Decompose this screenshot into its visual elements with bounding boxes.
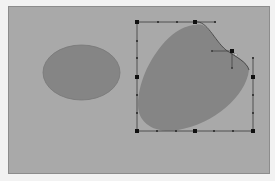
selection-tick-handle[interactable]	[252, 112, 254, 114]
selection-tick-handle[interactable]	[175, 130, 177, 132]
selection-tick-handle[interactable]	[136, 57, 138, 59]
ellipse-shape[interactable]	[43, 45, 120, 100]
resize-handle[interactable]	[193, 20, 197, 24]
selection-tick-handle[interactable]	[252, 57, 254, 59]
resize-handle[interactable]	[251, 75, 255, 79]
resize-handle[interactable]	[135, 20, 139, 24]
selection-tick-handle[interactable]	[176, 21, 178, 23]
selection-tick-handle[interactable]	[232, 130, 234, 132]
selection-tick-handle[interactable]	[136, 94, 138, 96]
selection-tick-handle[interactable]	[136, 40, 138, 42]
selection-tick-handle[interactable]	[157, 21, 159, 23]
resize-handle[interactable]	[135, 75, 139, 79]
bezier-control-point[interactable]	[231, 67, 233, 69]
selection-tick-handle[interactable]	[156, 130, 158, 132]
drawing-canvas[interactable]	[0, 0, 275, 181]
resize-handle[interactable]	[135, 129, 139, 133]
selection-tick-handle[interactable]	[252, 94, 254, 96]
selection-tick-handle[interactable]	[136, 112, 138, 114]
resize-handle[interactable]	[193, 129, 197, 133]
bezier-anchor-handle[interactable]	[230, 49, 234, 53]
bezier-control-point[interactable]	[211, 50, 213, 52]
selection-tick-handle[interactable]	[214, 21, 216, 23]
resize-handle[interactable]	[251, 129, 255, 133]
selection-tick-handle[interactable]	[213, 130, 215, 132]
